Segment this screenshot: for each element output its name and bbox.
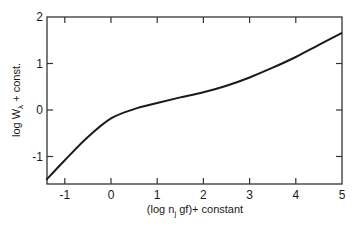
plot-frame [47,17,342,184]
x-tick-label: 1 [154,188,161,202]
x-tick-label: 5 [339,188,346,202]
curve-of-growth-chart: -1012345-1012 (log nj gf)+ constant log … [0,0,360,226]
x-tick-label: 4 [292,188,299,202]
axis-ticks [47,17,342,184]
y-tick-label: -1 [32,150,43,164]
y-axis-label: log Wλ + const. [10,63,25,137]
data-line [46,33,342,180]
x-tick-label: 0 [108,188,115,202]
x-tick-label: -1 [59,188,70,202]
y-tick-label: 1 [36,57,43,71]
x-axis-label: (log nj gf)+ constant [147,203,243,218]
x-tick-label: 2 [200,188,207,202]
y-tick-label: 0 [36,103,43,117]
y-tick-label: 2 [36,10,43,24]
x-tick-label: 3 [246,188,253,202]
tick-labels: -1012345-1012 [32,10,345,202]
